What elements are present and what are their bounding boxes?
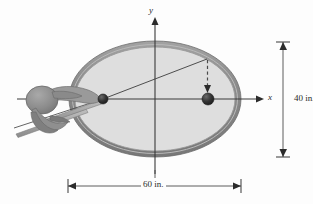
billiard-ellipse-figure: x y 40 in. 60 in. — [0, 0, 313, 204]
x-axis-arrow-icon — [256, 96, 264, 103]
figure-canvas — [0, 0, 313, 204]
y-axis-label: y — [149, 6, 153, 15]
focus-ball-left-icon — [98, 94, 108, 104]
dimension-minor-axis — [276, 42, 290, 157]
dim-horizontal-arrow-left — [68, 183, 76, 190]
focus-ball-right-icon — [202, 93, 214, 105]
dim-vertical-arrow-top — [280, 42, 288, 50]
minor-axis-dimension-label: 40 in. — [292, 94, 313, 103]
y-axis-arrow-icon — [152, 17, 159, 25]
dim-horizontal-arrow-right — [233, 183, 241, 190]
hand-fist — [26, 86, 58, 114]
x-axis-label: x — [268, 93, 272, 102]
major-axis-dimension-label: 60 in. — [141, 180, 166, 189]
dim-vertical-arrow-bottom — [280, 149, 288, 157]
